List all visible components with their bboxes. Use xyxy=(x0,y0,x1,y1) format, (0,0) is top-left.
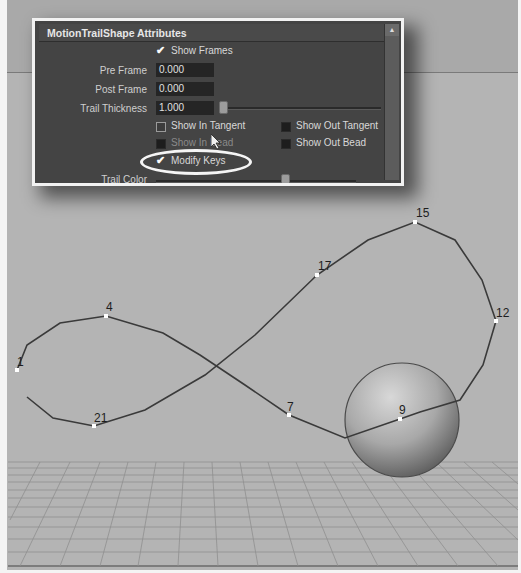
panel-title: MotionTrailShape Attributes xyxy=(39,24,385,42)
mouse-cursor-icon xyxy=(211,134,221,150)
pre-frame-label: Pre Frame xyxy=(37,65,147,76)
svg-text:9: 9 xyxy=(399,403,406,417)
show-in-tangent-label: Show In Tangent xyxy=(171,120,245,131)
show-frames-checkbox[interactable]: ✔ xyxy=(156,46,166,56)
show-frames-label: Show Frames xyxy=(171,45,233,56)
post-frame-label: Post Frame xyxy=(37,84,147,95)
trail-color-label: Trail Color xyxy=(37,174,147,185)
show-out-tangent-label: Show Out Tangent xyxy=(296,120,378,131)
svg-text:4: 4 xyxy=(106,300,113,314)
svg-text:17: 17 xyxy=(318,259,332,273)
show-out-bead-checkbox[interactable] xyxy=(281,139,291,149)
show-in-tangent-checkbox[interactable] xyxy=(156,122,166,132)
panel-scrollbar[interactable]: ▲ xyxy=(384,24,399,180)
highlight-annotation-oval xyxy=(140,149,252,175)
motion-trail-attributes-panel: MotionTrailShape Attributes ▲ ✔ Show Fra… xyxy=(32,18,404,186)
svg-text:1: 1 xyxy=(17,355,24,369)
trail-color-slider[interactable] xyxy=(156,180,356,183)
show-out-bead-label: Show Out Bead xyxy=(296,137,366,148)
trail-color-slider-thumb[interactable] xyxy=(281,174,290,186)
trail-thickness-label: Trail Thickness xyxy=(37,103,147,114)
show-out-tangent-checkbox[interactable] xyxy=(281,122,291,132)
svg-text:15: 15 xyxy=(416,206,430,220)
trail-thickness-field[interactable]: 1.000 xyxy=(156,101,214,115)
scroll-up-arrow-icon[interactable]: ▲ xyxy=(385,24,399,36)
post-frame-field[interactable]: 0.000 xyxy=(156,82,214,96)
show-in-bead-label: Show In Bead xyxy=(171,137,233,148)
svg-text:21: 21 xyxy=(94,411,108,425)
svg-text:7: 7 xyxy=(287,400,294,414)
ground-grid xyxy=(8,462,518,566)
pre-frame-field[interactable]: 0.000 xyxy=(156,63,214,77)
trail-thickness-slider[interactable] xyxy=(223,107,381,110)
svg-text:12: 12 xyxy=(496,306,510,320)
trail-thickness-slider-thumb[interactable] xyxy=(219,101,228,114)
show-in-bead-checkbox[interactable] xyxy=(156,139,166,149)
